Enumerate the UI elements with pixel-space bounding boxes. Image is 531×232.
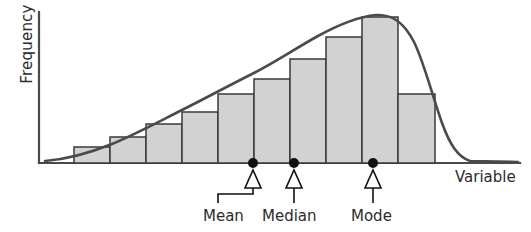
mode-marker-group <box>365 158 381 203</box>
mean-label: Mean <box>203 207 244 225</box>
mean-marker-group <box>218 158 261 203</box>
bar-5 <box>218 94 254 163</box>
mode-dot <box>368 158 378 168</box>
bar-6 <box>254 79 290 163</box>
bar-9 <box>362 17 398 163</box>
x-axis-title: Variable <box>455 168 516 186</box>
mean-arrow-icon <box>245 170 261 188</box>
median-dot <box>289 158 299 168</box>
bar-3 <box>146 124 182 163</box>
chart-svg: Mean Median Mode Variable <box>0 0 531 232</box>
mean-leader-line <box>218 188 253 203</box>
histogram-bars <box>74 17 435 163</box>
bar-2 <box>110 137 146 163</box>
bar-10 <box>398 94 435 163</box>
median-label: Median <box>262 207 317 225</box>
bar-7 <box>290 59 326 163</box>
median-marker-group <box>286 158 302 203</box>
median-arrow-icon <box>286 170 302 188</box>
bar-8 <box>326 37 362 163</box>
mode-label: Mode <box>351 207 392 225</box>
mean-dot <box>248 158 258 168</box>
chart-figure: Frequency <box>0 0 531 232</box>
mode-arrow-icon <box>365 170 381 188</box>
bar-4 <box>182 112 218 163</box>
